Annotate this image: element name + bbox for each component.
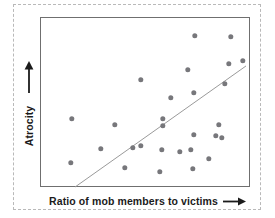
y-axis-label-group: Atrocity	[16, 60, 42, 172]
right-arrow-icon	[223, 196, 247, 207]
plot-area	[40, 17, 250, 187]
x-axis-label: Ratio of mob members to victims	[49, 195, 218, 207]
y-axis-label: Atrocity	[23, 106, 35, 146]
scatter-plot-figure: Atrocity Ratio of mob members to victims	[0, 0, 275, 218]
x-axis-label-group: Ratio of mob members to victims	[44, 191, 252, 211]
up-arrow-icon	[22, 60, 36, 94]
